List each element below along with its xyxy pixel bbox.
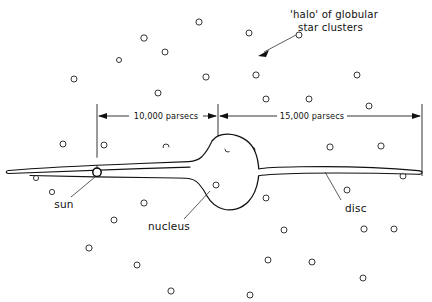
galaxy-cross-section-figure: 10,000 parsecs 15,000 parsecs (0, 0, 432, 302)
halo-cluster-points (33, 19, 406, 298)
halo-point (344, 187, 350, 193)
halo-point (263, 195, 269, 201)
arrowhead-halo (258, 50, 269, 57)
arrowhead-right-inner (219, 113, 228, 119)
disc-right-lower-edge (259, 172, 422, 176)
halo-point (253, 72, 259, 78)
halo-point (111, 217, 117, 223)
halo-point (203, 74, 209, 80)
sun-label: sun (54, 198, 73, 210)
halo-point (354, 72, 360, 78)
halo-point (366, 103, 372, 109)
halo-point (247, 292, 253, 298)
nucleus-lower-arc (207, 176, 259, 210)
halo-point (265, 257, 271, 263)
arrowhead-left-inner (208, 113, 217, 119)
dimension-annotations: 10,000 parsecs 15,000 parsecs (97, 104, 422, 178)
halo-point (86, 245, 92, 251)
halo-point (309, 259, 315, 265)
halo-point (168, 288, 174, 294)
disc-right-upper-edge (259, 167, 422, 172)
halo-label-line1: 'halo' of globular (290, 9, 379, 20)
arrowhead-right-outer (412, 113, 421, 119)
leader-line-nucleus (184, 191, 210, 219)
halo-point (117, 58, 122, 63)
galaxy-diagram: 10,000 parsecs 15,000 parsecs (0, 0, 432, 302)
disc-lower-left-edge (30, 176, 207, 197)
halo-label-line2: star clusters (298, 22, 363, 33)
halo-point (281, 227, 287, 233)
leader-lines (71, 35, 341, 219)
halo-point (141, 35, 147, 41)
arrowhead-left-outer (98, 113, 107, 119)
halo-point (360, 275, 366, 281)
halo-point (141, 200, 147, 206)
halo-point (49, 189, 54, 194)
halo-point (196, 19, 202, 25)
halo-point (155, 90, 161, 96)
halo-point (60, 141, 66, 147)
dimension-label-left: 10,000 parsecs (134, 111, 198, 121)
halo-point (378, 143, 384, 149)
disc-left-tip (6, 171, 8, 174)
halo-point (327, 144, 333, 150)
dimension-label-right: 15,000 parsecs (280, 111, 344, 121)
halo-point (263, 96, 269, 102)
nucleus-label: nucleus (148, 220, 190, 232)
leader-line-halo (264, 35, 296, 52)
leader-line-disc (325, 172, 341, 200)
halo-point (391, 226, 397, 232)
halo-point (361, 226, 367, 232)
nucleus-upper-arc (212, 134, 259, 169)
halo-point (101, 142, 107, 148)
halo-point (71, 76, 77, 82)
halo-point (246, 30, 252, 36)
disc-label: disc (345, 202, 367, 214)
halo-point (213, 182, 219, 188)
halo-point (134, 262, 140, 268)
sun-marker (93, 168, 101, 176)
halo-point (162, 49, 168, 55)
halo-point (306, 96, 312, 102)
disc-upper-edge (9, 141, 213, 171)
